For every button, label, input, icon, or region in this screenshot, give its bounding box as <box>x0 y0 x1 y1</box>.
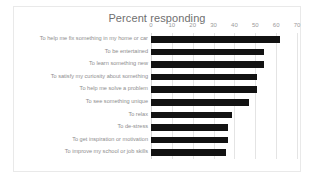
bar <box>151 112 232 119</box>
x-tick-label-70: 70 <box>294 22 301 28</box>
category-label: To satisfy my curiosity about something <box>51 72 148 81</box>
x-tick-label-40: 40 <box>231 22 238 28</box>
bar <box>151 99 249 106</box>
category-label: To de-stress <box>118 122 148 131</box>
bar-row: To be entertained <box>151 46 297 59</box>
x-tick-label-0: 0 <box>149 22 152 28</box>
x-tick-label-50: 50 <box>252 22 259 28</box>
bar-row: To satisfy my curiosity about something <box>151 71 297 84</box>
x-tick-label-60: 60 <box>273 22 280 28</box>
bar <box>151 149 226 156</box>
category-label: To help me solve a problem <box>80 84 148 93</box>
category-label: To improve my school or job skills <box>65 147 148 156</box>
plot-area: To help me fix something in my home or c… <box>151 33 297 159</box>
bar-row: To improve my school or job skills <box>151 146 297 159</box>
x-axis-tick-labels: 010203040506070 <box>151 22 297 33</box>
x-tick-label-10: 10 <box>169 22 176 28</box>
bar-row: To relax <box>151 109 297 122</box>
category-label: To be entertained <box>105 47 148 56</box>
bar <box>151 61 264 68</box>
category-label: To get inspiration or motivation <box>72 135 148 144</box>
bar <box>151 49 264 56</box>
bar <box>151 36 280 43</box>
category-label: To help me fix something in my home or c… <box>40 34 148 43</box>
bar-row: To help me solve a problem <box>151 83 297 96</box>
category-label: To see something unique <box>86 97 148 106</box>
chart-container: Percent responding 010203040506070 To he… <box>13 6 301 172</box>
bar <box>151 137 228 144</box>
bar-row: To de-stress <box>151 121 297 134</box>
gridline-70 <box>297 33 298 159</box>
bar <box>151 124 228 131</box>
x-tick-label-30: 30 <box>210 22 217 28</box>
x-tick-label-20: 20 <box>189 22 196 28</box>
category-label: To relax <box>128 110 148 119</box>
bar-row: To see something unique <box>151 96 297 109</box>
category-label: To learn something new <box>89 59 148 68</box>
bar <box>151 74 257 81</box>
bar-row: To get inspiration or motivation <box>151 134 297 147</box>
bar <box>151 86 257 93</box>
bar-row: To help me fix something in my home or c… <box>151 33 297 46</box>
bar-row: To learn something new <box>151 58 297 71</box>
